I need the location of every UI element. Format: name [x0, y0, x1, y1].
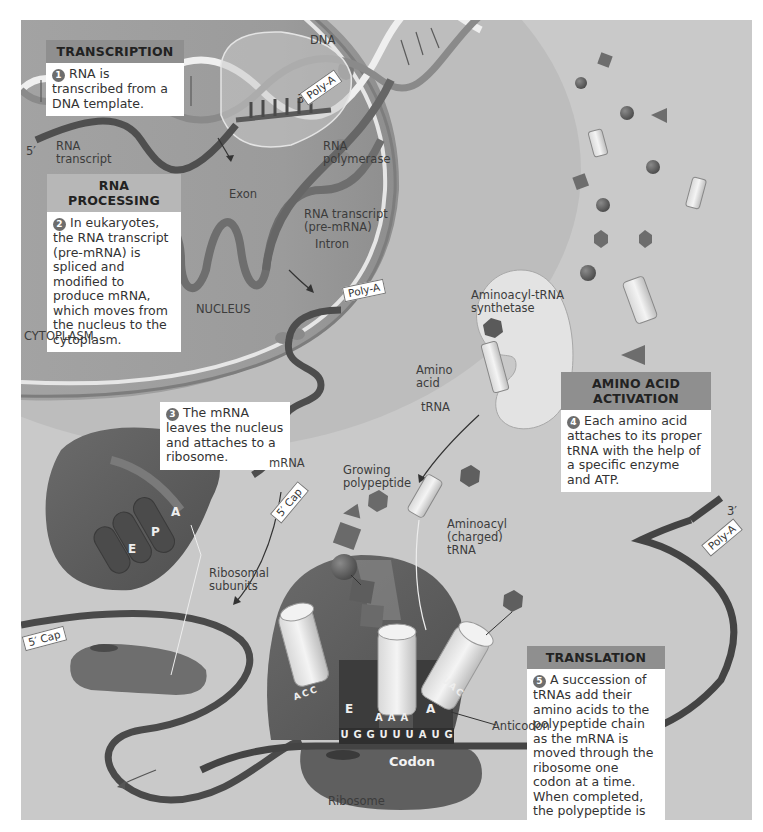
rna-polymerase-label: RNA polymerase	[323, 140, 390, 166]
charged-trna	[407, 473, 444, 518]
step-1-title: TRANSCRIPTION	[46, 40, 184, 63]
step-5-title: TRANSLATION	[527, 646, 665, 669]
ribosome-label: Ribosome	[328, 795, 385, 808]
site-e-label: E	[345, 702, 353, 716]
step-1-text: 1RNA is transcribed from a DNA template.	[46, 63, 184, 116]
step-2-title: RNA PROCESSING	[47, 174, 181, 212]
site-a-label: A	[426, 702, 435, 716]
mrna-codon-sequence: U G G U U U A U G	[339, 729, 454, 740]
cytoplasm-label: CYTOPLASM	[24, 330, 94, 343]
growing-polypeptide-label: Growing polypeptide	[343, 464, 411, 490]
step-4-text: 4Each amino acid attaches to its proper …	[561, 410, 711, 492]
amino-acid-label: Amino acid	[416, 364, 453, 390]
step-4-amino-acid-activation-box: AMINO ACID ACTIVATION 4Each amino acid a…	[561, 372, 711, 492]
trna-p-site	[378, 624, 416, 715]
trna-label: tRNA	[421, 401, 450, 414]
rna-transcript-label: RNA transcript	[56, 140, 112, 166]
five-prime-label: 5′	[26, 145, 36, 158]
step-2-rna-processing-box: RNA PROCESSING 2In eukaryotes, the RNA t…	[47, 174, 181, 352]
mrna-long-loop	[21, 614, 301, 800]
step-1-transcription-box: TRANSCRIPTION 1RNA is transcribed from a…	[46, 40, 184, 116]
site-a-label-left: A	[171, 505, 180, 519]
step-5-text: 5A succession of tRNAs add their amino a…	[527, 669, 665, 820]
anticodon-label: Anticodon	[492, 720, 550, 733]
ribosomal-subunits-label: Ribosomal subunits	[209, 567, 269, 593]
step-5-translation-box: TRANSLATION 5A succession of tRNAs add t…	[527, 646, 665, 820]
anticodon-middle: AAA	[375, 712, 413, 723]
intron-label: Intron	[315, 238, 349, 251]
site-e-label-left: E	[128, 542, 136, 556]
figure-panel: TRANSCRIPTION 1RNA is transcribed from a…	[21, 20, 752, 820]
three-prime-right-label: 3′	[727, 505, 737, 518]
free-trnas	[588, 129, 707, 325]
dna-label: DNA	[310, 34, 335, 47]
rna-transcript-pre-mrna-label: RNA transcript (pre-mRNA)	[304, 208, 388, 234]
aminoacyl-trna-synthetase-label: Aminoacyl-tRNA synthetase	[471, 289, 564, 315]
step-4-title: AMINO ACID ACTIVATION	[561, 372, 711, 410]
aminoacyl-charged-trna-label: Aminoacyl (charged) tRNA	[447, 518, 507, 557]
nucleus-label: NUCLEUS	[196, 303, 250, 316]
mrna-label: mRNA	[269, 457, 305, 470]
small-subunit-left	[70, 644, 206, 695]
exon-label: Exon	[229, 188, 257, 201]
site-p-label-left: P	[151, 525, 160, 539]
codon-label: Codon	[389, 754, 435, 769]
